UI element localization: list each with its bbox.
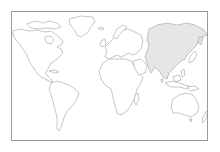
region-tasmania[interactable]: [189, 119, 192, 122]
region-greenland[interactable]: [69, 16, 95, 37]
region-philippines[interactable]: [181, 69, 185, 77]
world-map: [12, 12, 207, 140]
region-indonesia[interactable]: [165, 81, 191, 89]
region-australia[interactable]: [171, 93, 199, 117]
region-new-zealand[interactable]: [202, 111, 207, 123]
region-sri-lanka[interactable]: [161, 79, 163, 82]
map-canvas: [0, 0, 220, 152]
region-asia[interactable]: [145, 23, 207, 79]
map-frame: [11, 11, 208, 141]
region-arctic-islands[interactable]: [27, 21, 61, 29]
region-south-america[interactable]: [49, 81, 79, 131]
region-iceland[interactable]: [98, 27, 104, 30]
region-north-america[interactable]: [13, 29, 63, 83]
region-new-guinea[interactable]: [187, 86, 199, 91]
region-japan[interactable]: [189, 51, 197, 63]
region-kamchatka[interactable]: [198, 37, 203, 45]
region-british-isles[interactable]: [100, 39, 106, 47]
region-caribbean[interactable]: [49, 70, 59, 73]
region-europe[interactable]: [105, 29, 143, 59]
region-borneo[interactable]: [173, 75, 181, 82]
